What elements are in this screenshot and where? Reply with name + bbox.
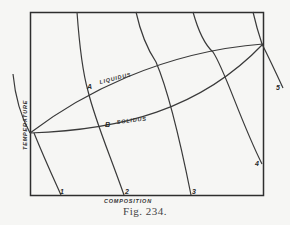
isotherm-label-5: 5 xyxy=(276,84,280,91)
solidus-label: SOLIDUS xyxy=(116,115,147,125)
cooling-curve-4 xyxy=(193,12,262,164)
cooling-curve-2 xyxy=(77,12,124,195)
diagram-frame xyxy=(31,13,264,196)
y-axis-label: TEMPERATURE xyxy=(22,100,28,150)
isotherm-label-2: 2 xyxy=(124,188,129,195)
figure-caption: Fig. 234. xyxy=(0,205,290,217)
phase-diagram: LIQUIDUS SOLIDUS A B 1 2 3 4 5 COMPOSITI… xyxy=(0,0,290,225)
point-b-label: B xyxy=(105,121,110,128)
cooling-curve-3 xyxy=(136,12,191,195)
x-axis-label: COMPOSITION xyxy=(104,198,152,204)
isotherm-label-1: 1 xyxy=(60,188,64,195)
isotherm-label-3: 3 xyxy=(192,188,196,195)
cooling-curve-1 xyxy=(34,133,61,195)
liquidus-label: LIQUIDUS xyxy=(99,71,132,85)
point-a-label: A xyxy=(86,83,92,90)
isotherm-label-4: 4 xyxy=(254,160,259,167)
